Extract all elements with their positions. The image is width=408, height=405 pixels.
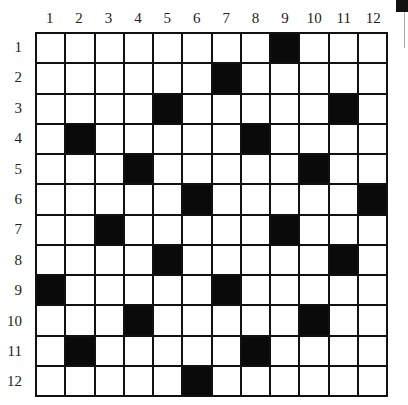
grid-cell[interactable] (37, 337, 64, 365)
grid-cell[interactable] (359, 95, 386, 123)
grid-cell[interactable] (96, 246, 123, 274)
grid-cell[interactable] (66, 216, 93, 244)
grid-cell[interactable] (183, 276, 210, 304)
grid-cell[interactable] (271, 246, 298, 274)
grid-cell[interactable] (300, 95, 327, 123)
grid-cell[interactable] (154, 306, 181, 334)
grid-cell[interactable] (330, 64, 357, 92)
grid-cell[interactable] (37, 367, 64, 395)
grid-cell[interactable] (213, 306, 240, 334)
grid-cell[interactable] (37, 246, 64, 274)
grid-cell[interactable] (66, 95, 93, 123)
grid-cell[interactable] (330, 367, 357, 395)
grid-cell[interactable] (271, 185, 298, 213)
grid-cell[interactable] (330, 216, 357, 244)
grid-cell[interactable] (300, 34, 327, 62)
grid-cell[interactable] (300, 64, 327, 92)
grid-cell[interactable] (183, 155, 210, 183)
grid-cell[interactable] (96, 276, 123, 304)
grid-cell[interactable] (213, 155, 240, 183)
grid-cell[interactable] (183, 34, 210, 62)
grid-cell[interactable] (66, 185, 93, 213)
grid-cell[interactable] (125, 34, 152, 62)
grid-cell[interactable] (271, 125, 298, 153)
grid-cell[interactable] (154, 34, 181, 62)
grid-cell[interactable] (242, 276, 269, 304)
grid-cell[interactable] (125, 125, 152, 153)
grid-cell[interactable] (66, 276, 93, 304)
grid-cell[interactable] (125, 337, 152, 365)
grid-cell[interactable] (271, 306, 298, 334)
grid-cell[interactable] (37, 64, 64, 92)
grid-cell[interactable] (66, 367, 93, 395)
grid-cell[interactable] (242, 34, 269, 62)
grid-cell[interactable] (96, 155, 123, 183)
grid-cell[interactable] (300, 185, 327, 213)
grid-cell[interactable] (125, 246, 152, 274)
grid-cell[interactable] (96, 306, 123, 334)
grid-cell[interactable] (37, 185, 64, 213)
grid-cell[interactable] (330, 155, 357, 183)
grid-cell[interactable] (183, 95, 210, 123)
grid-cell[interactable] (242, 306, 269, 334)
grid-cell[interactable] (183, 216, 210, 244)
grid-cell[interactable] (359, 337, 386, 365)
grid-cell[interactable] (213, 246, 240, 274)
grid-cell[interactable] (125, 276, 152, 304)
grid-cell[interactable] (183, 246, 210, 274)
grid-cell[interactable] (37, 155, 64, 183)
grid-cell[interactable] (183, 306, 210, 334)
grid-cell[interactable] (183, 125, 210, 153)
grid-cell[interactable] (300, 276, 327, 304)
grid-cell[interactable] (213, 216, 240, 244)
grid-cell[interactable] (183, 64, 210, 92)
grid-cell[interactable] (37, 125, 64, 153)
grid-cell[interactable] (330, 185, 357, 213)
grid-cell[interactable] (242, 246, 269, 274)
grid-cell[interactable] (154, 125, 181, 153)
grid-cell[interactable] (96, 337, 123, 365)
grid-cell[interactable] (271, 337, 298, 365)
grid-cell[interactable] (242, 95, 269, 123)
grid-cell[interactable] (66, 246, 93, 274)
grid-cell[interactable] (183, 337, 210, 365)
grid-cell[interactable] (154, 185, 181, 213)
grid-cell[interactable] (96, 64, 123, 92)
grid-cell[interactable] (271, 64, 298, 92)
grid-cell[interactable] (154, 216, 181, 244)
grid-cell[interactable] (213, 95, 240, 123)
grid-cell[interactable] (330, 125, 357, 153)
grid-cell[interactable] (271, 95, 298, 123)
grid-cell[interactable] (300, 367, 327, 395)
grid-cell[interactable] (242, 155, 269, 183)
grid-cell[interactable] (125, 216, 152, 244)
grid-cell[interactable] (330, 34, 357, 62)
grid-cell[interactable] (125, 367, 152, 395)
grid-cell[interactable] (300, 216, 327, 244)
grid-cell[interactable] (271, 155, 298, 183)
grid-cell[interactable] (213, 125, 240, 153)
grid-cell[interactable] (300, 125, 327, 153)
grid-cell[interactable] (359, 246, 386, 274)
grid-cell[interactable] (125, 95, 152, 123)
grid-cell[interactable] (359, 64, 386, 92)
grid-cell[interactable] (271, 367, 298, 395)
grid-cell[interactable] (154, 64, 181, 92)
grid-cell[interactable] (154, 276, 181, 304)
grid-cell[interactable] (96, 34, 123, 62)
grid-cell[interactable] (66, 155, 93, 183)
grid-cell[interactable] (359, 155, 386, 183)
grid-cell[interactable] (154, 155, 181, 183)
grid-cell[interactable] (359, 306, 386, 334)
grid-cell[interactable] (330, 276, 357, 304)
grid-cell[interactable] (242, 185, 269, 213)
grid-cell[interactable] (66, 64, 93, 92)
grid-cell[interactable] (213, 185, 240, 213)
grid-cell[interactable] (242, 64, 269, 92)
grid-cell[interactable] (66, 306, 93, 334)
grid-cell[interactable] (96, 367, 123, 395)
grid-cell[interactable] (242, 216, 269, 244)
grid-cell[interactable] (37, 216, 64, 244)
grid-cell[interactable] (37, 34, 64, 62)
grid-cell[interactable] (359, 34, 386, 62)
